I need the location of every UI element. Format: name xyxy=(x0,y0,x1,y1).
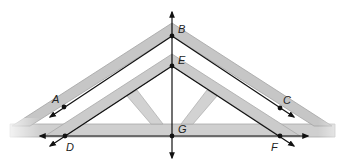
label-E: E xyxy=(178,54,186,66)
label-C: C xyxy=(283,94,291,106)
label-A: A xyxy=(51,93,59,105)
point-B xyxy=(170,34,175,39)
label-F: F xyxy=(271,141,279,153)
truss-diagram: A B C D E F G xyxy=(0,0,356,166)
point-F xyxy=(278,134,283,139)
label-B: B xyxy=(178,23,185,35)
label-G: G xyxy=(178,123,187,135)
point-A xyxy=(62,105,67,110)
point-E xyxy=(170,64,175,69)
left-strut xyxy=(127,90,163,124)
right-strut xyxy=(181,90,217,124)
point-G xyxy=(170,134,175,139)
point-D xyxy=(63,134,68,139)
label-D: D xyxy=(66,141,74,153)
point-C xyxy=(278,106,283,111)
